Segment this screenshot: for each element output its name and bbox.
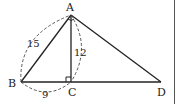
- label-point-b: B: [8, 77, 16, 90]
- label-point-a: A: [65, 1, 75, 14]
- triangle-diagram: A B C D 15 12 9: [0, 0, 176, 104]
- label-length-ac: 12: [74, 47, 87, 58]
- label-point-d: D: [157, 86, 166, 99]
- label-point-c: C: [68, 86, 76, 99]
- label-length-ab: 15: [27, 38, 40, 49]
- right-angle-marker: [66, 77, 71, 82]
- label-length-bc: 9: [42, 89, 48, 100]
